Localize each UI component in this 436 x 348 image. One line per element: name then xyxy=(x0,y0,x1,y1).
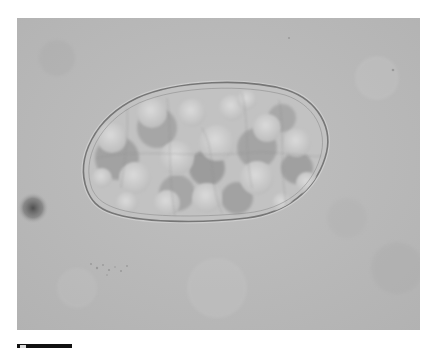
dark-spot xyxy=(17,192,49,224)
scale-bar xyxy=(17,344,72,348)
micrograph-image xyxy=(17,18,420,330)
micrograph-svg xyxy=(17,18,420,330)
